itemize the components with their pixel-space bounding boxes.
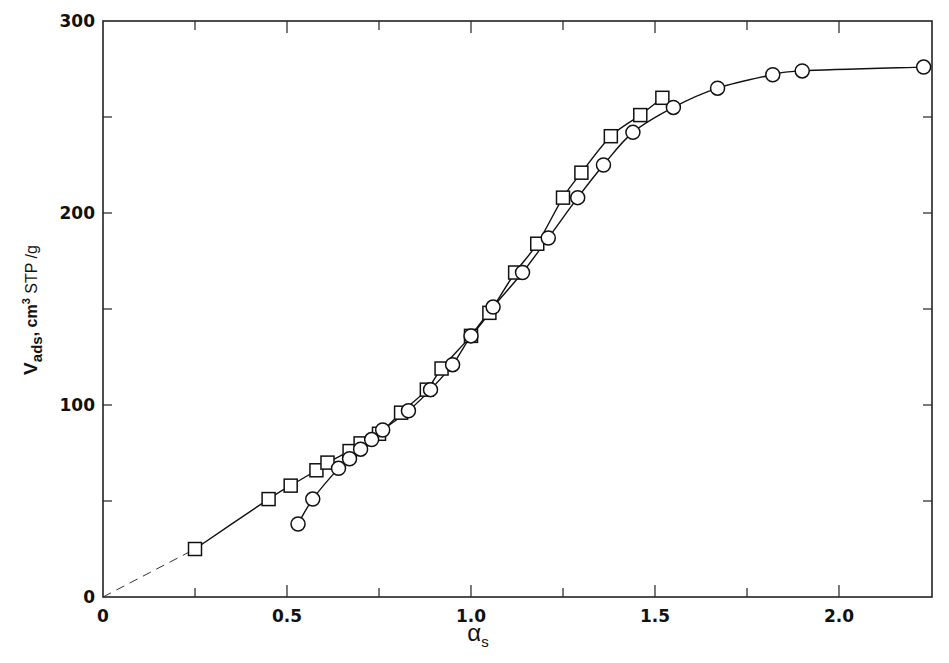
- extrapolation-dashed-line: [103, 549, 195, 597]
- circle-marker: [291, 517, 305, 531]
- circle-marker: [486, 300, 500, 314]
- plot-frame: [103, 21, 932, 597]
- circle-marker: [464, 329, 478, 343]
- circle-marker: [401, 404, 415, 418]
- x-tick-label: 2.0: [824, 606, 854, 626]
- axes: [103, 21, 932, 597]
- circle-marker: [626, 125, 640, 139]
- circle-marker: [917, 60, 931, 74]
- circle-marker: [596, 158, 610, 172]
- circle-marker: [795, 64, 809, 78]
- circle-marker: [424, 383, 438, 397]
- square-marker: [634, 109, 647, 122]
- circle-marker: [446, 358, 460, 372]
- x-tick-label: 1.5: [640, 606, 670, 626]
- y-tick-label: 200: [60, 203, 96, 223]
- circle-marker: [766, 68, 780, 82]
- square-marker: [262, 493, 275, 506]
- circle-marker: [711, 81, 725, 95]
- x-axis-title-subscript: s: [481, 633, 489, 650]
- y-tick-label: 0: [83, 587, 95, 607]
- y-tick-label: 100: [60, 395, 96, 415]
- chart: 00.51.01.52.00100200300 αs Vads, cm3 STP…: [0, 0, 949, 663]
- extrapolation-line: [103, 549, 195, 597]
- x-tick-label: 0.5: [272, 606, 302, 626]
- y-axis-title-main: V: [20, 362, 41, 375]
- circle-marker: [306, 492, 320, 506]
- y-tick-label: 300: [60, 11, 96, 31]
- circle-marker: [376, 423, 390, 437]
- y-axis-title-units-suffix: STP /g: [23, 245, 40, 298]
- square-marker: [575, 166, 588, 179]
- circle-marker: [666, 100, 680, 114]
- x-tick-label: 0: [97, 606, 109, 626]
- y-axis-title-units: , cm: [23, 304, 40, 336]
- x-axis-title-main: α: [467, 619, 481, 646]
- y-axis-title: Vads, cm3 STP /g: [20, 245, 45, 375]
- square-marker: [557, 191, 570, 204]
- series-line-squares: [195, 98, 662, 549]
- circle-marker: [541, 231, 555, 245]
- square-marker: [284, 479, 297, 492]
- square-marker: [189, 543, 202, 556]
- circle-marker: [516, 266, 530, 280]
- series-markers: [189, 60, 931, 555]
- square-marker: [604, 130, 617, 143]
- series-lines: [195, 67, 924, 549]
- square-marker: [656, 91, 669, 104]
- circle-marker: [571, 191, 585, 205]
- y-axis-title-subscript: ads: [28, 336, 45, 362]
